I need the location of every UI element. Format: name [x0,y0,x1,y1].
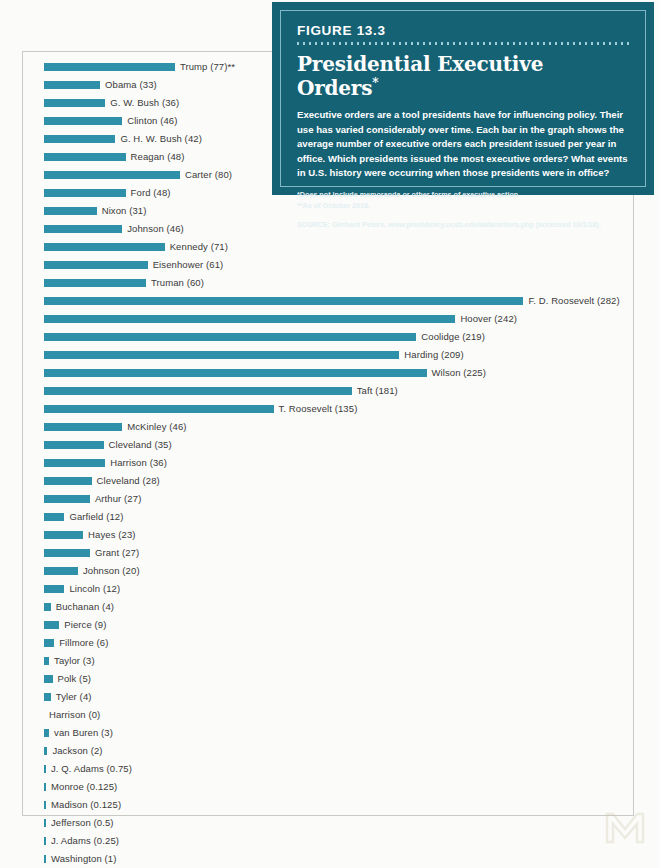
chart-bar-label: Wilson (225) [432,364,487,382]
chart-bar [44,333,416,341]
chart-bar-label: Pierce (9) [64,616,106,634]
chart-bar-fill [44,171,180,179]
chart-bar-row: Cleveland (35) [0,436,659,454]
figure-callout-box: FIGURE 13.3 Presidential Executive Order… [272,2,654,195]
chart-bar-label: Harding (209) [404,346,463,364]
chart-bar-row: Taft (181) [0,382,659,400]
chart-bar-label: Madison (0.125) [51,796,121,814]
chart-bar-fill [44,423,122,431]
chart-bar-label: Arthur (27) [95,490,142,508]
figure-title-asterisk: * [372,76,378,90]
chart-bar-fill [44,783,46,791]
chart-bar-label: Harrison (36) [110,454,167,472]
chart-bar [44,99,105,107]
chart-bar [44,585,64,593]
chart-bar-fill [44,531,83,539]
chart-bar-fill [44,603,51,611]
figure-title-text: Presidential Executive Orders [297,52,543,100]
chart-bar-row: Washington (1) [0,850,659,868]
chart-bar-label: Ford (48) [131,184,171,202]
chart-bar-fill [44,189,126,197]
figure-callout-inner-border: FIGURE 13.3 Presidential Executive Order… [280,10,646,187]
chart-bar-fill [44,81,100,89]
chart-bar [44,801,46,809]
chart-bar-row: Buchanan (4) [0,598,659,616]
chart-bar-fill [44,153,126,161]
chart-bar-label: Eisenhower (61) [153,256,224,274]
chart-bar [44,279,146,287]
dotted-divider [297,42,629,45]
chart-bar-label: Reagan (48) [131,148,185,166]
chart-bar-row: Pierce (9) [0,616,659,634]
chart-bar-fill [44,513,64,521]
chart-bar-label: Kennedy (71) [170,238,228,256]
chart-bar [44,189,126,197]
chart-bar-row: Tyler (4) [0,688,659,706]
chart-bar [44,63,175,71]
chart-bar-row: Johnson (20) [0,562,659,580]
chart-bar [44,153,126,161]
chart-bar [44,783,46,791]
chart-bar [44,261,148,269]
chart-bar [44,567,78,575]
chart-bar-row: F. D. Roosevelt (282) [0,292,659,310]
chart-bar-row: J. Q. Adams (0.75) [0,760,659,778]
chart-bar-row: van Buren (3) [0,724,659,742]
chart-bar-label: Monroe (0.125) [51,778,117,796]
chart-bar [44,351,399,359]
chart-bar-label: McKinley (46) [127,418,186,436]
chart-bar [44,477,92,485]
chart-bar-fill [44,819,46,827]
chart-bar-fill [44,405,274,413]
chart-bar-label: Washington (1) [51,850,116,868]
chart-bar-row: Jefferson (0.5) [0,814,659,832]
chart-bar-label: Johnson (20) [83,562,140,580]
chart-bar [44,855,46,863]
chart-bar-label: J. Q. Adams (0.75) [51,760,132,778]
chart-bar-label: Obama (33) [105,76,157,94]
chart-bar-label: Taylor (3) [54,652,95,670]
chart-bar-label: Truman (60) [151,274,204,292]
chart-bar-label: J. Adams (0.25) [51,832,119,850]
chart-bar [44,729,49,737]
chart-bar-label: G. H. W. Bush (42) [120,130,202,148]
chart-bar [44,225,122,233]
chart-bar-label: Jackson (2) [52,742,102,760]
chart-bar-fill [44,333,416,341]
chart-bar-fill [44,117,122,125]
figure-source: SOURCE: Gerhard Peters, www.presidency.u… [297,220,629,231]
chart-bar [44,747,47,755]
chart-bar-fill [44,351,399,359]
chart-bar-label: Taft (181) [357,382,398,400]
figure-number: FIGURE 13.3 [297,23,629,38]
chart-bar-label: Grant (27) [95,544,139,562]
chart-bar-row: Coolidge (219) [0,328,659,346]
chart-bar-fill [44,99,105,107]
chart-bar-row: Kennedy (71) [0,238,659,256]
chart-bar-row: Harding (209) [0,346,659,364]
chart-bar-label: Cleveland (28) [97,472,160,490]
chart-bar-fill [44,765,46,773]
chart-bar-fill [44,459,105,467]
chart-bar-row: Eisenhower (61) [0,256,659,274]
chart-bar-row: Grant (27) [0,544,659,562]
chart-bar-fill [44,675,53,683]
chart-bar [44,369,427,377]
chart-bar-fill [44,63,175,71]
chart-bar [44,603,51,611]
chart-bar-fill [44,369,427,377]
chart-bar-fill [44,315,455,323]
chart-bar-label: Jefferson (0.5) [51,814,114,832]
chart-bar [44,819,46,827]
chart-bar-label: Fillmore (6) [59,634,108,652]
chart-bar-row: Truman (60) [0,274,659,292]
chart-bar-label: Nixon (31) [102,202,147,220]
chart-bar [44,837,46,845]
figure-title: Presidential Executive Orders* [297,52,629,100]
chart-bar-label: Hayes (23) [88,526,135,544]
chart-bar-fill [44,747,47,755]
chart-bar [44,405,274,413]
chart-bar-row: Lincoln (12) [0,580,659,598]
figure-footnote-1: *Does not include memoranda or other for… [297,190,629,201]
chart-bar-row: McKinley (46) [0,418,659,436]
